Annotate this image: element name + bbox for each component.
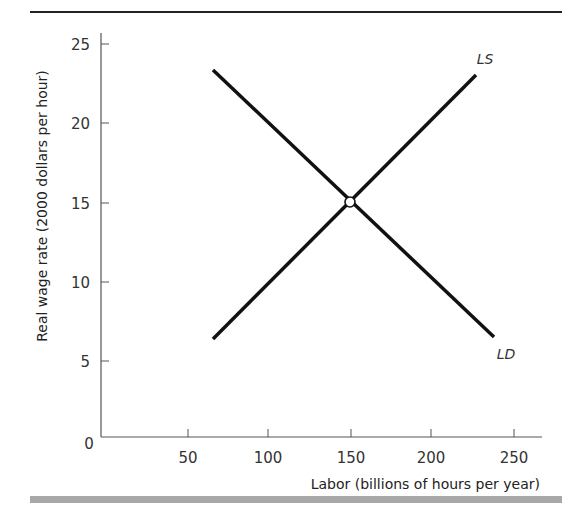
x-tick-150: 150 — [337, 449, 366, 467]
x-tick-100: 100 — [254, 449, 283, 467]
y-tick-15: 15 — [71, 195, 90, 213]
ld-label: LD — [497, 346, 516, 362]
ls-label: LS — [477, 51, 494, 67]
x-ticks: 50 100 150 200 250 — [178, 429, 528, 467]
y-tick-25: 25 — [71, 36, 90, 54]
origin-label: 0 — [84, 435, 94, 453]
y-tick-20: 20 — [71, 115, 90, 133]
x-axis-title: Labor (billions of hours per year) — [311, 476, 540, 492]
y-tick-5: 5 — [80, 353, 90, 371]
x-tick-200: 200 — [417, 449, 446, 467]
bottom-rule — [30, 496, 562, 503]
y-ticks: 25 20 15 10 5 0 — [71, 36, 109, 453]
y-axis-title: Real wage rate (2000 dollars per hour) — [34, 70, 50, 342]
x-tick-250: 250 — [500, 449, 529, 467]
labor-supply-curve — [213, 75, 476, 339]
y-tick-10: 10 — [71, 274, 90, 292]
equilibrium-point — [345, 197, 355, 207]
labor-market-chart: 25 20 15 10 5 0 50 100 150 200 250 Labor… — [0, 0, 578, 517]
x-tick-50: 50 — [178, 449, 197, 467]
